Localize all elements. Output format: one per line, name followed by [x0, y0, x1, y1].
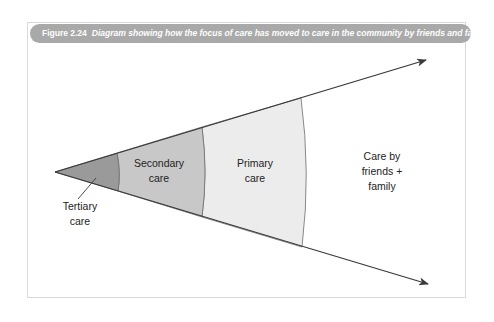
label-community-line2: friends +	[362, 165, 403, 177]
figure-caption-text: Figure 2.24Diagram showing how the focus…	[30, 29, 471, 38]
figure-page: Secondary care Primary care Care by frie…	[0, 0, 494, 322]
figure-number: Figure 2.24	[42, 28, 87, 38]
care-cone-diagram: Secondary care Primary care Care by frie…	[0, 0, 494, 322]
label-tertiary-care-line2: care	[70, 215, 91, 227]
figure-caption: Diagram showing how the focus of care ha…	[92, 28, 471, 38]
label-primary-care-line2: care	[245, 172, 266, 184]
label-secondary-care-line2: care	[149, 172, 170, 184]
label-primary-care-line1: Primary	[237, 157, 274, 169]
label-community-line3: family	[368, 180, 396, 192]
label-community-line1: Care by	[364, 150, 402, 162]
band-tertiary	[55, 153, 119, 191]
label-secondary-care-line1: Secondary	[134, 157, 185, 169]
label-tertiary-care-line1: Tertiary	[63, 200, 98, 212]
band-tertiary-shape	[55, 153, 119, 191]
figure-caption-bar: Figure 2.24Diagram showing how the focus…	[30, 24, 471, 43]
